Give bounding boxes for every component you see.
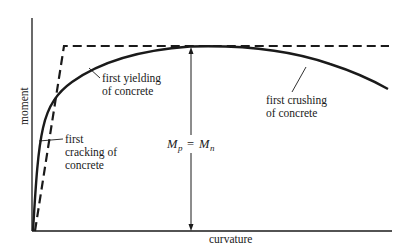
- cracking-label-3: concrete: [65, 159, 104, 171]
- arrow-head-bottom-icon: [189, 224, 194, 231]
- yielding-label-1: first yielding: [102, 72, 161, 85]
- moment-curvature-diagram: moment curvature first yielding of concr…: [0, 0, 419, 249]
- moment-equation: M p = M n: [166, 137, 215, 153]
- yielding-label-2: of concrete: [102, 85, 153, 97]
- crushing-label-2: of concrete: [266, 107, 317, 119]
- cracking-label-1: first: [65, 133, 84, 145]
- svg-text:M: M: [166, 137, 178, 151]
- svg-text:n: n: [210, 143, 215, 153]
- crushing-leader: [292, 67, 306, 92]
- x-axis-label: curvature: [209, 233, 252, 245]
- svg-text:M: M: [198, 137, 210, 151]
- svg-text:=: =: [187, 137, 194, 151]
- cracking-leader: [39, 139, 63, 141]
- svg-text:p: p: [177, 143, 183, 153]
- y-axis-label: moment: [18, 87, 30, 125]
- arrow-head-top-icon: [189, 47, 194, 54]
- cracking-label-2: cracking of: [65, 146, 117, 159]
- crushing-label-1: first crushing: [266, 94, 327, 107]
